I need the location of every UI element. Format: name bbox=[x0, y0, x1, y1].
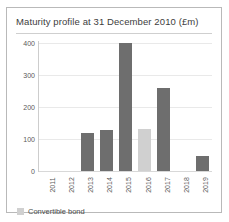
bar-2015[interactable] bbox=[119, 43, 132, 171]
x-slot-2015: 2015 bbox=[116, 174, 135, 204]
bar-slot-2013 bbox=[77, 43, 96, 171]
x-tick-label-2015: 2015 bbox=[125, 177, 132, 193]
legend-label-convertible-bond: Convertible bond bbox=[28, 207, 85, 216]
x-slot-2014: 2014 bbox=[97, 174, 116, 204]
x-axis-labels: 201120122013201420152016201720182019 bbox=[39, 174, 212, 204]
bar-slot-2012 bbox=[58, 43, 77, 171]
bar-slot-2014 bbox=[97, 43, 116, 171]
chart-card: Maturity profile at 31 December 2010 (£m… bbox=[6, 7, 222, 213]
x-slot-2016: 2016 bbox=[135, 174, 154, 204]
bar-slot-2017 bbox=[154, 43, 173, 171]
legend-swatch-convertible-bond bbox=[17, 208, 24, 215]
bar-slot-2016 bbox=[135, 43, 154, 171]
bar-2013[interactable] bbox=[81, 133, 94, 171]
bar-2014[interactable] bbox=[100, 130, 113, 171]
chart-title: Maturity profile at 31 December 2010 (£m… bbox=[16, 16, 199, 27]
x-slot-2019: 2019 bbox=[193, 174, 212, 204]
x-slot-2013: 2013 bbox=[77, 174, 96, 204]
bar-slot-2018 bbox=[174, 43, 193, 171]
x-tick-label-2016: 2016 bbox=[145, 177, 152, 193]
x-tick-label-2019: 2019 bbox=[202, 177, 209, 193]
x-tick-label-2012: 2012 bbox=[68, 177, 75, 193]
bar-slot-2019 bbox=[193, 43, 212, 171]
x-tick-label-2018: 2018 bbox=[183, 177, 190, 193]
x-slot-2018: 2018 bbox=[174, 174, 193, 204]
x-slot-2012: 2012 bbox=[58, 174, 77, 204]
bar-group bbox=[39, 43, 212, 171]
x-slot-2017: 2017 bbox=[154, 174, 173, 204]
y-tick-label-400: 400 bbox=[23, 40, 35, 47]
bar-slot-2015 bbox=[116, 43, 135, 171]
x-tick-label-2013: 2013 bbox=[87, 177, 94, 193]
x-tick-label-2017: 2017 bbox=[164, 177, 171, 193]
title-divider bbox=[16, 33, 212, 34]
y-tick-label-0: 0 bbox=[31, 168, 35, 175]
plot-area: 0100200300400 bbox=[39, 43, 212, 171]
y-tick-label-200: 200 bbox=[23, 104, 35, 111]
legend: Convertible bond bbox=[17, 207, 85, 216]
y-tick-label-300: 300 bbox=[23, 72, 35, 79]
x-tick-label-2011: 2011 bbox=[49, 177, 56, 192]
bar-slot-2011 bbox=[39, 43, 58, 171]
gridline-0: 0 bbox=[39, 171, 212, 172]
bar-2016[interactable] bbox=[138, 129, 151, 171]
bar-2017[interactable] bbox=[157, 88, 170, 171]
y-tick-label-100: 100 bbox=[23, 136, 35, 143]
x-slot-2011: 2011 bbox=[39, 174, 58, 204]
x-tick-label-2014: 2014 bbox=[106, 177, 113, 193]
bar-2019[interactable] bbox=[196, 156, 209, 171]
